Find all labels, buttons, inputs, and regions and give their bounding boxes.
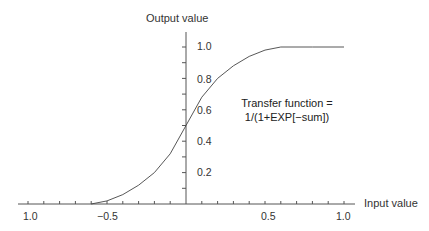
x-axis-label: Input value [364,197,418,209]
y-ticks [182,47,186,188]
x-tick-label: 0.5 [261,210,276,222]
transfer-function-curve [91,47,344,204]
y-tick-label: 0.6 [197,104,212,116]
annotation-line-2: 1/(1+EXP[−sum]) [232,110,342,124]
y-tick-label: 0.8 [197,73,212,85]
annotation-line-1: Transfer function = [232,96,342,110]
y-tick-label: 1.0 [197,40,212,52]
x-tick-label: −0.5 [97,210,118,222]
x-tick-label: 1.0 [336,210,351,222]
y-tick-label: 0.2 [197,166,212,178]
transfer-function-annotation: Transfer function = 1/(1+EXP[−sum]) [232,96,342,124]
y-axis-label: Output value [146,12,208,24]
x-tick-label: 1.0 [23,210,38,222]
y-tick-label: 0.4 [197,135,212,147]
